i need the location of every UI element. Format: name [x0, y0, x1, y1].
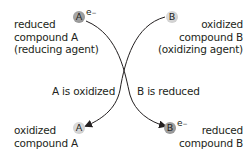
- compound-a-circle: A: [73, 11, 85, 23]
- label-line: compound B: [179, 137, 243, 150]
- compound-b-circle-product: B: [164, 122, 176, 134]
- label-line: compound A: [14, 31, 99, 44]
- label-line: reduced: [179, 124, 243, 137]
- label-line: compound A: [14, 137, 78, 150]
- electron-label: e−: [86, 8, 97, 17]
- oxidized-compound-a-label: oxidized compound A: [14, 124, 78, 149]
- reduced-compound-b-label: reduced compound B: [179, 124, 243, 149]
- label-line: reduced: [14, 18, 99, 31]
- oxidized-compound-b-label: oxidized compound B (oxidizing agent): [158, 18, 243, 56]
- label-line: oxidized: [14, 124, 78, 137]
- label-line: oxidized: [158, 18, 243, 31]
- a-is-oxidized-label: A is oxidized: [52, 85, 115, 98]
- label-line: (reducing agent): [14, 43, 99, 56]
- label-line: compound B: [158, 31, 243, 44]
- b-is-reduced-label: B is reduced: [137, 85, 200, 98]
- reduced-compound-a-label: reduced compound A (reducing agent): [14, 18, 99, 56]
- compound-a-circle-product: A: [73, 122, 85, 134]
- electron-charge: −: [92, 9, 97, 16]
- label-line: (oxidizing agent): [158, 43, 243, 56]
